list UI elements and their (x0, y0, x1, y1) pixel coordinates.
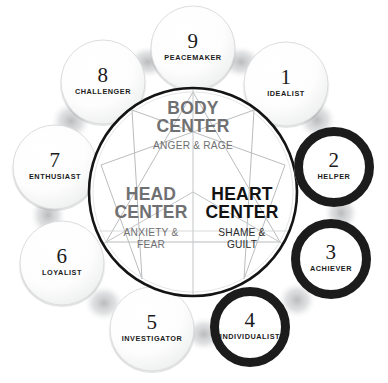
type-node-2[interactable]: 2 HELPER (291, 150, 377, 182)
type-node-7[interactable]: 7 ENTHUSIAST (12, 150, 98, 182)
center-head-emotion-line2: FEAR (108, 239, 194, 251)
type-number-9: 9 (150, 31, 236, 51)
type-number-7: 7 (12, 150, 98, 170)
type-number-4: 4 (207, 310, 293, 330)
center-head-title-line2: CENTER (108, 204, 194, 222)
type-node-6[interactable]: 6 LOYALIST (19, 246, 105, 278)
type-node-4[interactable]: 4 INDIVIDUALIST (207, 310, 293, 342)
type-number-2: 2 (291, 150, 377, 170)
type-name-9: PEACEMAKER (150, 53, 236, 63)
type-name-5: INVESTIGATOR (109, 334, 195, 344)
center-body-title-line1: BODY (123, 100, 263, 118)
type-name-3: ACHIEVER (288, 264, 374, 274)
type-number-8: 8 (60, 65, 146, 85)
center-heart-emotion-line2: GUILT (196, 239, 288, 251)
type-name-1: IDEALIST (243, 89, 329, 99)
center-heart-title-line1: HEART (196, 186, 288, 204)
center-head-emotion-line1: ANXIETY & (108, 227, 194, 239)
type-name-7: ENTHUSIAST (12, 172, 98, 182)
type-node-9[interactable]: 9 PEACEMAKER (150, 31, 236, 63)
type-name-4: INDIVIDUALIST (207, 332, 293, 342)
center-body-emotion: ANGER & RAGE (123, 140, 263, 152)
type-name-2: HELPER (291, 172, 377, 182)
type-number-1: 1 (243, 67, 329, 87)
center-heart-emotion-line1: SHAME & (196, 227, 288, 239)
type-name-6: LOYALIST (19, 268, 105, 278)
type-number-6: 6 (19, 246, 105, 266)
type-node-8[interactable]: 8 CHALLENGER (60, 65, 146, 97)
type-number-3: 3 (288, 242, 374, 262)
center-body[interactable]: BODY CENTER ANGER & RAGE (123, 100, 263, 152)
center-heart[interactable]: HEART CENTER SHAME & GUILT (196, 186, 288, 250)
type-node-3[interactable]: 3 ACHIEVER (288, 242, 374, 274)
type-node-1[interactable]: 1 IDEALIST (243, 67, 329, 99)
center-heart-title-line2: CENTER (196, 204, 288, 222)
center-head-title-line1: HEAD (108, 186, 194, 204)
type-node-5[interactable]: 5 INVESTIGATOR (109, 312, 195, 344)
enneagram-diagram: 9 PEACEMAKER 1 IDEALIST 2 HELPER 3 ACHIE… (0, 0, 388, 383)
center-head[interactable]: HEAD CENTER ANXIETY & FEAR (108, 186, 194, 250)
type-number-5: 5 (109, 312, 195, 332)
center-body-title-line2: CENTER (123, 118, 263, 136)
type-name-8: CHALLENGER (60, 87, 146, 97)
